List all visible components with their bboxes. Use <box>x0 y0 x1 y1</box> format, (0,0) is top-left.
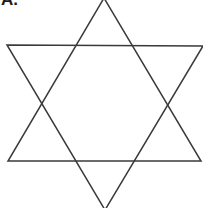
hexagram-figure <box>0 0 203 208</box>
downward-triangle <box>7 45 203 208</box>
upward-triangle <box>8 0 201 161</box>
